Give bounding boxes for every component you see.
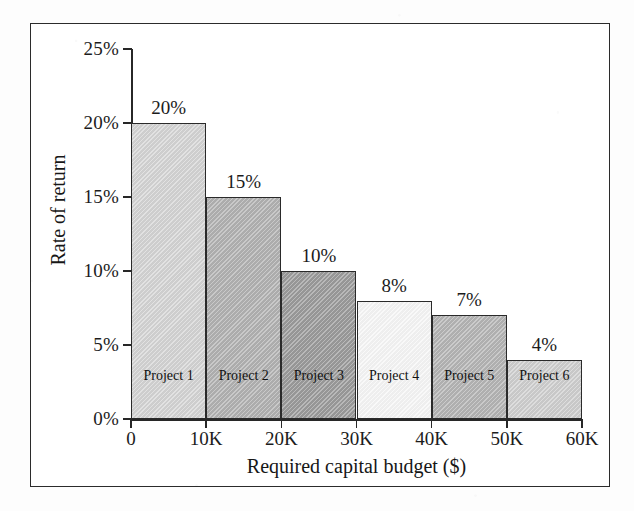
- bar-category-label: Project 6: [497, 368, 592, 384]
- bar-value-label: 4%: [487, 335, 602, 355]
- y-axis-title: Rate of return: [47, 110, 69, 310]
- x-axis-tick: [581, 419, 583, 428]
- bar-value-label: 7%: [412, 290, 527, 310]
- x-axis-title: Required capital budget ($): [131, 454, 582, 478]
- y-axis-tick-label: 15%: [63, 187, 119, 206]
- x-axis-tick: [130, 419, 132, 428]
- y-axis-tick-label: 5%: [63, 335, 119, 354]
- y-axis-tick: [123, 48, 132, 50]
- bar: [357, 301, 432, 419]
- x-axis-tick: [431, 419, 433, 428]
- x-axis-tick: [281, 419, 283, 428]
- x-axis-tick: [356, 419, 358, 428]
- bar-value-label: 20%: [111, 98, 226, 118]
- bar-value-label: 15%: [186, 172, 301, 192]
- x-axis-tick-label: 0: [96, 428, 166, 450]
- y-axis-tick-label: 25%: [63, 39, 119, 58]
- x-axis-tick-label: 40K: [397, 428, 467, 450]
- y-axis-tick-label-wrap: 25%: [59, 39, 119, 58]
- bar: [206, 197, 281, 419]
- x-axis-tick-label: 60K: [547, 428, 617, 450]
- bar-value-label: 10%: [261, 246, 376, 266]
- x-axis-tick-label: 20K: [246, 428, 316, 450]
- chart-figure-frame: 25%20%15%10%5%0% 010K20K30K40K50K60K 20%…: [30, 23, 610, 487]
- x-axis-tick: [205, 419, 207, 428]
- y-axis-tick-label: 0%: [63, 409, 119, 428]
- x-axis-tick-label: 30K: [322, 428, 392, 450]
- x-axis-tick-label: 50K: [472, 428, 542, 450]
- y-axis-tick-label-wrap: 0%: [59, 409, 119, 428]
- x-axis-tick: [506, 419, 508, 428]
- y-axis-tick-label-wrap: 5%: [59, 335, 119, 354]
- x-axis-tick-label: 10K: [171, 428, 241, 450]
- plot-area: 25%20%15%10%5%0% 010K20K30K40K50K60K 20%…: [31, 24, 609, 486]
- y-axis-tick-label: 10%: [63, 261, 119, 280]
